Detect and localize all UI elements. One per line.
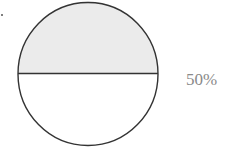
unshaded-bottom-half xyxy=(18,73,158,144)
shaded-top-half xyxy=(18,2,158,73)
percentage-label: 50% xyxy=(186,70,217,90)
